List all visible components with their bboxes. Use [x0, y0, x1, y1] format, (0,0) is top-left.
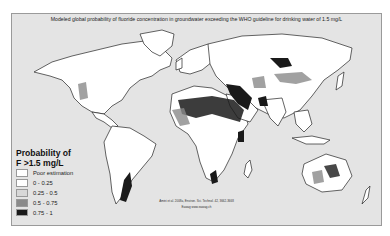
- citation-source: Eawag www.eawag.ch: [12, 205, 381, 211]
- legend-swatch: [16, 189, 28, 197]
- map-frame: Modeled global probability of fluoride c…: [11, 13, 382, 226]
- legend-item-poor-estimation: Poor estimation: [16, 168, 102, 178]
- legend-title-line2: F >1.5 mg/L: [16, 159, 102, 169]
- legend-item-0.25-0.5: 0.25 - 0.5: [16, 188, 102, 198]
- citation: Amini et al. 2008a, Environ. Sci. Techno…: [12, 199, 381, 210]
- legend-label: 0.25 - 0.5: [33, 190, 58, 196]
- legend-label: 0 - 0.25: [33, 180, 53, 186]
- legend-swatch: [16, 209, 28, 217]
- south-america: [104, 126, 156, 204]
- southeast-asia: [294, 110, 312, 132]
- central-america: [92, 112, 118, 128]
- legend-item-0-0.25: 0 - 0.25: [16, 178, 102, 188]
- legend-swatch: [16, 179, 28, 187]
- japan: [336, 72, 344, 90]
- legend-label: Poor estimation: [33, 170, 73, 176]
- madagascar: [244, 160, 252, 178]
- legend-label: 0.75 - 1: [33, 210, 53, 216]
- legend-swatch: [16, 169, 28, 177]
- indonesia: [292, 136, 330, 144]
- australia: [302, 154, 352, 192]
